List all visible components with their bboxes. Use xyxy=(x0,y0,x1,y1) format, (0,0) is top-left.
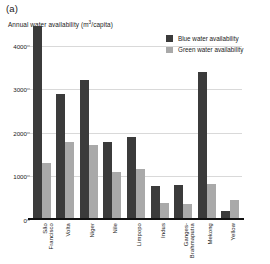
bar xyxy=(174,185,183,220)
x-axis-label: Volta xyxy=(65,223,71,237)
bar xyxy=(56,94,65,220)
y-axis-tick-label: 2000 xyxy=(13,129,27,136)
bar xyxy=(207,184,216,220)
bar-group xyxy=(124,24,148,220)
figure-panel-a: (a) Annual water availability (m3/capita… xyxy=(0,0,270,264)
x-axis-label-cell: SãoFrancisco xyxy=(30,222,54,264)
x-axis-label-line1: Mekong xyxy=(207,223,213,245)
x-axis-label-cell: Limpopo xyxy=(124,222,148,264)
x-axis-label-line1: Volta xyxy=(65,223,71,237)
bar xyxy=(89,145,98,220)
x-axis-line xyxy=(28,218,244,220)
bar xyxy=(65,142,74,220)
x-axis-labels: SãoFranciscoVoltaNigerNileLimpopoIndusGa… xyxy=(30,222,242,264)
x-axis-label: Limpopo xyxy=(136,223,142,246)
bar xyxy=(33,26,42,220)
bar-group xyxy=(101,24,125,220)
bar xyxy=(230,200,239,220)
bar-group xyxy=(195,24,219,220)
plot-area: 01000200030004000 xyxy=(30,24,242,220)
y-axis-tick-label: 1000 xyxy=(13,173,27,180)
x-axis-label-cell: Volta xyxy=(54,222,78,264)
bar xyxy=(103,142,112,220)
x-axis-label-cell: Ganges-Brahmaputra xyxy=(171,222,195,264)
bar-group xyxy=(219,24,243,220)
x-axis-label: Mekong xyxy=(207,223,213,245)
y-axis-tick-label: 4000 xyxy=(13,42,27,49)
x-axis-label-line1: Limpopo xyxy=(136,223,142,246)
panel-label: (a) xyxy=(6,3,18,14)
bar-group xyxy=(30,24,54,220)
bar-group xyxy=(77,24,101,220)
bar xyxy=(198,72,207,220)
bar xyxy=(112,172,121,220)
x-axis-label-cell: Indus xyxy=(148,222,172,264)
x-axis-label-line1: Yellow xyxy=(230,223,236,240)
x-axis-label-line1: São xyxy=(42,223,48,234)
x-axis-label-cell: Nile xyxy=(101,222,125,264)
x-axis-label: Yellow xyxy=(230,223,236,240)
bar xyxy=(80,80,89,220)
x-axis-label-line1: Nile xyxy=(112,223,118,234)
bar-group xyxy=(54,24,78,220)
x-axis-label: Nile xyxy=(112,223,118,234)
bar-group xyxy=(148,24,172,220)
x-axis-label-line1: Niger xyxy=(89,223,95,238)
bar xyxy=(160,203,169,220)
bar xyxy=(151,186,160,220)
y-axis-tick-label: 3000 xyxy=(13,86,27,93)
x-axis-label: Niger xyxy=(89,223,95,238)
x-axis-label-line1: Ganges- xyxy=(183,223,189,246)
x-axis-label-cell: Mekong xyxy=(195,222,219,264)
x-axis-label-cell: Yellow xyxy=(219,222,243,264)
bar xyxy=(136,169,145,220)
x-axis-label-cell: Niger xyxy=(77,222,101,264)
bar xyxy=(42,163,51,220)
x-axis-label-line1: Indus xyxy=(160,223,166,238)
bar xyxy=(127,137,136,220)
bar-groups xyxy=(30,24,242,220)
bar-group xyxy=(171,24,195,220)
x-axis-label: Indus xyxy=(160,223,166,238)
